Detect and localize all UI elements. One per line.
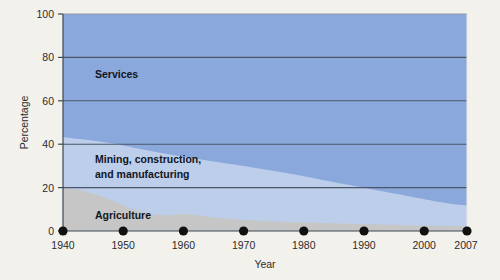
x-tick-label-2007: 2007 xyxy=(454,239,478,251)
x-marker-1960 xyxy=(179,226,188,235)
y-axis-title: Percentage xyxy=(18,95,30,149)
y-tick-label-0: 0 xyxy=(48,225,54,237)
band-label-agriculture: Agriculture xyxy=(95,209,151,221)
chart-figure: 100 80 60 40 20 0 Percentage 1940 1950 1… xyxy=(0,0,500,280)
x-tick-label-1940: 1940 xyxy=(51,239,75,251)
x-tick-label-1970: 1970 xyxy=(232,239,256,251)
band-label-mining-line1: Mining, construction, xyxy=(95,153,201,165)
band-label-mining-line2: and manufacturing xyxy=(95,168,190,180)
x-marker-1990 xyxy=(359,226,368,235)
x-marker-1950 xyxy=(119,226,128,235)
stacked-area-chart: 100 80 60 40 20 0 Percentage 1940 1950 1… xyxy=(0,0,500,280)
x-marker-2000 xyxy=(420,226,429,235)
x-marker-1970 xyxy=(239,226,248,235)
x-tick-label-1960: 1960 xyxy=(172,239,196,251)
x-marker-1980 xyxy=(299,226,308,235)
y-tick-label-80: 80 xyxy=(42,51,54,63)
x-marker-2007 xyxy=(462,226,471,235)
x-tick-label-1950: 1950 xyxy=(112,239,136,251)
band-label-services: Services xyxy=(95,68,138,80)
y-tick-label-60: 60 xyxy=(42,95,54,107)
x-tick-label-1980: 1980 xyxy=(292,239,316,251)
y-tick-label-100: 100 xyxy=(36,8,54,20)
y-tick-label-20: 20 xyxy=(42,182,54,194)
x-tick-label-2000: 2000 xyxy=(413,239,437,251)
y-tick-label-40: 40 xyxy=(42,138,54,150)
x-tick-label-1990: 1990 xyxy=(352,239,376,251)
x-marker-1940 xyxy=(58,226,67,235)
x-axis-title: Year xyxy=(254,258,276,270)
